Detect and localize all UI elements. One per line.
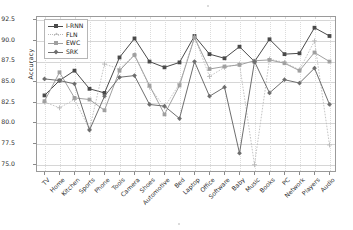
data-point-marker xyxy=(238,45,242,49)
data-point-marker xyxy=(42,77,47,82)
x-tick-mark xyxy=(59,172,60,175)
data-point-marker xyxy=(148,60,152,64)
legend-label: FLN xyxy=(66,32,77,38)
x-tick-mark xyxy=(149,172,150,175)
x-tick-mark xyxy=(329,172,330,175)
series-line xyxy=(45,62,330,154)
data-point-marker xyxy=(133,53,137,57)
data-point-marker xyxy=(103,108,107,112)
legend-marker-icon xyxy=(54,41,58,45)
data-point-marker xyxy=(223,56,227,60)
x-tick-mark xyxy=(284,172,285,175)
data-point-marker xyxy=(102,62,107,67)
x-tick-mark xyxy=(134,172,135,175)
y-tick-label: 75.0 xyxy=(0,161,15,167)
legend-swatch-icon xyxy=(48,39,63,47)
x-tick-mark xyxy=(164,172,165,175)
y-tick-label: 85.0 xyxy=(0,78,15,84)
data-point-marker xyxy=(252,162,257,167)
data-point-marker xyxy=(178,84,182,88)
data-point-marker xyxy=(192,59,197,64)
y-tick-label: 80.0 xyxy=(0,119,15,125)
x-tick-mark xyxy=(104,172,105,175)
data-point-marker xyxy=(73,96,77,100)
data-point-marker xyxy=(73,69,77,73)
data-point-marker xyxy=(147,102,152,107)
x-tick-mark xyxy=(119,172,120,175)
data-point-marker xyxy=(118,56,122,60)
data-point-marker xyxy=(207,94,212,99)
data-point-marker xyxy=(298,69,302,73)
legend-label: I-RNN xyxy=(66,23,83,29)
legend-marker-icon xyxy=(53,33,59,39)
legend-item-ewc[interactable]: EWC xyxy=(48,39,83,48)
y-tick-label: 82.5 xyxy=(0,99,15,105)
data-point-marker xyxy=(283,61,287,65)
x-tick-mark xyxy=(194,172,195,175)
legend-swatch-icon xyxy=(48,22,63,30)
data-point-marker xyxy=(268,58,272,62)
data-point-marker xyxy=(163,112,167,116)
data-point-marker xyxy=(88,87,92,91)
series-srk xyxy=(42,59,332,155)
legend-swatch-icon xyxy=(48,31,63,39)
data-point-marker xyxy=(132,73,137,78)
decorative-speck-bottom xyxy=(178,223,180,225)
x-tick-mark xyxy=(314,172,315,175)
y-tick-label: 92.5 xyxy=(0,16,15,22)
legend-item-srk[interactable]: SRK xyxy=(48,48,83,57)
y-tick-label: 87.5 xyxy=(0,57,15,63)
data-point-marker xyxy=(58,70,62,74)
data-point-marker xyxy=(72,81,77,86)
data-point-marker xyxy=(118,69,122,73)
data-point-marker xyxy=(238,63,242,67)
data-point-marker xyxy=(222,85,227,90)
decorative-speck-top xyxy=(207,5,209,7)
y-tick-label: 90.0 xyxy=(0,37,15,43)
data-point-marker xyxy=(148,84,152,88)
data-point-marker xyxy=(328,60,332,64)
x-tick-mark xyxy=(44,172,45,175)
data-point-marker xyxy=(327,142,332,147)
data-point-marker xyxy=(178,60,182,64)
data-point-marker xyxy=(133,37,137,41)
data-point-marker xyxy=(298,51,302,55)
legend-swatch-icon xyxy=(48,48,63,56)
data-point-marker xyxy=(88,98,92,102)
x-tick-mark xyxy=(254,172,255,175)
data-point-marker xyxy=(328,34,332,38)
x-tick-mark xyxy=(74,172,75,175)
data-point-marker xyxy=(237,151,242,156)
x-tick-mark xyxy=(209,172,210,175)
data-point-marker xyxy=(208,67,212,71)
y-tick-label: 77.5 xyxy=(0,140,15,146)
legend-marker-icon xyxy=(54,24,58,28)
data-point-marker xyxy=(43,94,47,98)
legend-marker-icon xyxy=(53,50,58,55)
legend-label: EWC xyxy=(66,40,80,46)
data-point-marker xyxy=(43,99,47,103)
data-point-marker xyxy=(313,26,317,30)
data-point-marker xyxy=(163,65,167,69)
data-point-marker xyxy=(283,52,287,56)
x-tick-mark xyxy=(224,172,225,175)
data-point-marker xyxy=(327,102,332,107)
x-tick-mark xyxy=(269,172,270,175)
legend-item-i-rnn[interactable]: I-RNN xyxy=(48,22,83,31)
data-point-marker xyxy=(208,52,212,56)
x-tick-mark xyxy=(299,172,300,175)
data-point-marker xyxy=(312,38,317,43)
x-tick-mark xyxy=(179,172,180,175)
data-point-marker xyxy=(57,105,62,110)
accuracy-line-chart-figure: Accuracy 75.077.580.082.585.087.590.092.… xyxy=(0,0,353,230)
data-point-marker xyxy=(313,51,317,55)
legend-label: SRK xyxy=(66,49,78,55)
legend-item-fln[interactable]: FLN xyxy=(48,31,83,40)
x-tick-mark xyxy=(89,172,90,175)
data-point-marker xyxy=(268,37,272,41)
data-point-marker xyxy=(87,128,92,133)
data-point-marker xyxy=(193,36,197,40)
x-tick-mark xyxy=(239,172,240,175)
data-point-marker xyxy=(223,65,227,69)
chart-legend: I-RNNFLNEWCSRK xyxy=(44,19,88,59)
